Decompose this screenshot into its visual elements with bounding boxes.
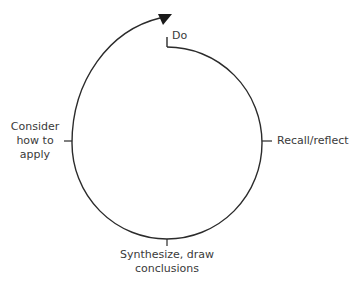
synthesize-line-2: conclusions bbox=[107, 262, 227, 276]
spiral-arrow-path bbox=[72, 18, 160, 143]
step-recall-label: Recall/reflect bbox=[277, 134, 349, 148]
consider-line-3: apply bbox=[6, 148, 64, 162]
step-consider-label: Consider how to apply bbox=[6, 120, 64, 162]
step-do-label: Do bbox=[172, 29, 187, 43]
consider-line-1: Consider bbox=[6, 120, 64, 134]
consider-line-2: how to bbox=[6, 134, 64, 148]
cycle-path bbox=[72, 47, 262, 239]
arrowhead-icon bbox=[158, 14, 172, 25]
step-synthesize-label: Synthesize, draw conclusions bbox=[107, 248, 227, 276]
synthesize-line-1: Synthesize, draw bbox=[107, 248, 227, 262]
